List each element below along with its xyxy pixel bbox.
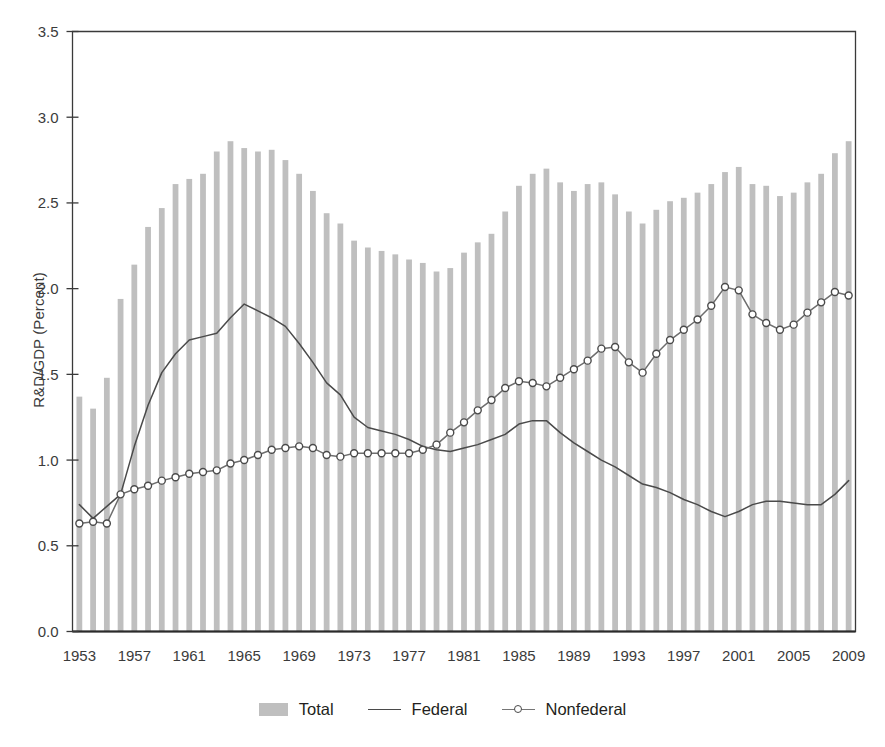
bar-total-1979: [434, 272, 440, 632]
legend-bar-swatch-icon: [259, 703, 288, 716]
bar-total-1976: [392, 254, 398, 631]
bar-total-1992: [612, 194, 618, 631]
x-axis-ticks: 1953195719611965196919731977198119851989…: [63, 647, 866, 664]
bar-total-1987: [544, 169, 550, 632]
bar-total-1958: [145, 227, 151, 632]
bar-total-1953: [76, 397, 82, 632]
nonfederal-marker-1993: [625, 359, 632, 366]
y-tick-label-1.0: 1.0: [38, 452, 59, 469]
nonfederal-marker-1955: [103, 520, 110, 527]
bar-total-1993: [626, 212, 632, 632]
nonfederal-marker-1985: [515, 378, 522, 385]
bar-total-1985: [516, 186, 522, 632]
bar-total-1988: [557, 182, 563, 631]
nonfederal-marker-1960: [172, 474, 179, 481]
x-tick-label-1977: 1977: [392, 647, 425, 664]
bar-total-1966: [255, 152, 261, 632]
nonfederal-marker-1978: [419, 446, 426, 453]
nonfederal-marker-1966: [254, 451, 261, 458]
bar-total-1977: [406, 260, 412, 632]
rd-gdp-chart-plot: 0.00.51.01.52.02.53.03.5 195319571961196…: [0, 0, 885, 700]
bar-total-1981: [461, 253, 467, 632]
bar-total-1982: [475, 242, 481, 631]
nonfederal-marker-1981: [461, 419, 468, 426]
bar-total-1962: [200, 174, 206, 632]
nonfederal-marker-1990: [584, 357, 591, 364]
x-tick-label-1981: 1981: [447, 647, 480, 664]
nonfederal-marker-1975: [378, 450, 385, 457]
bar-total-1961: [186, 179, 192, 632]
nonfederal-marker-1982: [474, 407, 481, 414]
bar-total-1990: [585, 184, 591, 631]
nonfederal-marker-1967: [268, 446, 275, 453]
bar-total-1972: [337, 224, 343, 632]
nonfederal-marker-1986: [529, 379, 536, 386]
nonfederal-marker-1968: [282, 445, 289, 452]
nonfederal-marker-1979: [433, 441, 440, 448]
nonfederal-marker-1983: [488, 397, 495, 404]
bar-total-1984: [502, 212, 508, 632]
legend-label-nonfederal: Nonfederal: [546, 700, 627, 719]
y-tick-label-0.5: 0.5: [38, 537, 59, 554]
bar-total-2004: [777, 196, 783, 631]
nonfederal-marker-2001: [735, 287, 742, 294]
nonfederal-marker-1959: [158, 477, 165, 484]
nonfederal-marker-2002: [749, 311, 756, 318]
bar-total-1959: [159, 208, 165, 631]
nonfederal-marker-1963: [213, 467, 220, 474]
nonfederal-marker-2009: [845, 292, 852, 299]
bar-total-1998: [695, 193, 701, 632]
nonfederal-marker-2005: [790, 321, 797, 328]
legend-entry-federal: Federal: [368, 700, 468, 719]
bar-total-2005: [791, 193, 797, 632]
legend-entry-nonfederal: Nonfederal: [502, 700, 627, 719]
x-tick-label-1961: 1961: [173, 647, 206, 664]
nonfederal-marker-1984: [502, 385, 509, 392]
y-tick-label-3.0: 3.0: [38, 109, 59, 126]
bar-total-2003: [763, 186, 769, 632]
x-tick-label-1997: 1997: [667, 647, 700, 664]
x-tick-label-1973: 1973: [337, 647, 370, 664]
bar-total-1967: [269, 150, 275, 632]
bar-total-1999: [708, 184, 714, 631]
bar-total-1995: [653, 210, 659, 632]
bar-total-1997: [681, 198, 687, 632]
legend-label-federal: Federal: [412, 700, 468, 719]
nonfederal-marker-2007: [818, 299, 825, 306]
x-tick-label-1953: 1953: [63, 647, 96, 664]
bar-total-1983: [489, 234, 495, 632]
nonfederal-marker-1970: [309, 445, 316, 452]
bar-total-1960: [173, 184, 179, 631]
nonfederal-marker-1953: [76, 520, 83, 527]
nonfederal-marker-1989: [570, 366, 577, 373]
bar-total-2000: [722, 172, 728, 631]
nonfederal-marker-1997: [680, 326, 687, 333]
nonfederal-marker-1965: [241, 457, 248, 464]
bar-total-1965: [241, 148, 247, 631]
x-tick-label-1965: 1965: [228, 647, 261, 664]
nonfederal-marker-1980: [447, 429, 454, 436]
bar-total-1970: [310, 191, 316, 632]
x-tick-label-1957: 1957: [118, 647, 151, 664]
bar-total-1969: [296, 174, 302, 632]
nonfederal-marker-1996: [667, 337, 674, 344]
nonfederal-marker-1954: [90, 518, 97, 525]
x-tick-label-2009: 2009: [832, 647, 865, 664]
nonfederal-marker-1994: [639, 369, 646, 376]
bar-total-2006: [805, 182, 811, 631]
nonfederal-marker-1987: [543, 383, 550, 390]
x-tick-label-2005: 2005: [777, 647, 810, 664]
bar-total-1973: [351, 241, 357, 632]
bar-total-1986: [530, 174, 536, 632]
nonfederal-marker-1973: [351, 450, 358, 457]
nonfederal-marker-1961: [186, 470, 193, 477]
nonfederal-marker-2006: [804, 309, 811, 316]
nonfederal-marker-1964: [227, 460, 234, 467]
bar-total-1964: [228, 141, 234, 631]
nonfederal-marker-2008: [831, 289, 838, 296]
nonfederal-marker-1958: [145, 482, 152, 489]
nonfederal-marker-1995: [653, 350, 660, 357]
nonfederal-marker-1957: [131, 486, 138, 493]
bar-total-2001: [736, 167, 742, 632]
nonfederal-marker-1974: [364, 450, 371, 457]
